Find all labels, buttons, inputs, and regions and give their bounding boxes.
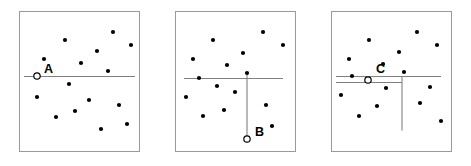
site-point	[428, 85, 432, 89]
site-point	[197, 76, 201, 80]
panel-a: A	[0, 0, 155, 166]
site-point	[99, 127, 103, 131]
site-point	[211, 38, 215, 42]
panel-a-frame	[20, 12, 140, 152]
site-point	[233, 90, 237, 94]
site-point	[397, 50, 401, 54]
site-point	[375, 104, 379, 108]
site-point	[222, 108, 226, 112]
site-point	[117, 103, 121, 107]
site-point	[63, 38, 67, 42]
panel-c-canvas: C	[312, 0, 467, 166]
site-point	[350, 74, 354, 78]
panel-b-label: B	[255, 125, 264, 139]
site-point	[245, 71, 249, 75]
site-point	[184, 95, 188, 99]
site-point	[215, 84, 219, 88]
site-point	[402, 70, 406, 74]
panel-a-label: A	[44, 62, 53, 76]
panel-c-event-marker	[365, 77, 371, 83]
site-point	[261, 30, 265, 34]
site-point	[73, 109, 77, 113]
site-point	[347, 57, 351, 61]
site-point	[225, 63, 229, 67]
site-point	[418, 101, 422, 105]
site-point	[415, 30, 419, 34]
panel-a-event-marker	[34, 73, 40, 79]
panel-b-frame	[176, 12, 296, 152]
panel-c-frame	[332, 12, 452, 152]
site-point	[111, 30, 115, 34]
site-point	[87, 98, 91, 102]
panel-b-event-marker	[244, 136, 250, 142]
site-point	[129, 43, 133, 47]
site-point	[95, 49, 99, 53]
site-point	[191, 57, 195, 61]
site-point	[270, 124, 274, 128]
site-point	[367, 38, 371, 42]
panel-b: B	[156, 0, 311, 166]
site-point	[281, 43, 285, 47]
site-point	[439, 119, 443, 123]
site-point	[201, 114, 205, 118]
figure-root: A B C	[0, 0, 471, 166]
site-point	[357, 114, 361, 118]
site-point	[264, 103, 268, 107]
site-point	[106, 69, 110, 73]
panel-c-label: C	[376, 62, 385, 76]
site-point	[241, 51, 245, 55]
site-point	[435, 43, 439, 47]
panel-c: C	[312, 0, 467, 166]
site-point	[54, 115, 58, 119]
site-point	[125, 122, 129, 126]
site-point	[35, 95, 39, 99]
site-point	[79, 61, 83, 65]
site-point	[384, 86, 388, 90]
site-point	[67, 82, 71, 86]
panel-b-canvas: B	[156, 0, 311, 166]
site-point	[339, 93, 343, 97]
site-point	[42, 57, 46, 61]
panel-a-canvas: A	[0, 0, 155, 166]
